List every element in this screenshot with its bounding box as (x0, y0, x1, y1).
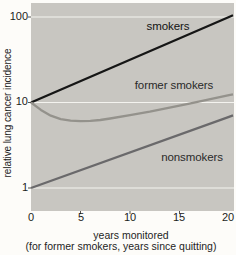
y-tick-label-10: 10 (0, 96, 28, 107)
series-label-nonsmokers: nonsmokers (161, 152, 223, 164)
series-label-smokers: smokers (147, 21, 190, 33)
x-tick-label-20: 20 (222, 212, 234, 223)
x-tick-label-10: 10 (124, 212, 136, 223)
x-tick-label-5: 5 (78, 212, 84, 223)
lung-cancer-incidence-figure: relative lung cancer incidence 100 10 1 … (0, 0, 236, 255)
chart-canvas (0, 0, 236, 255)
y-axis-title: relative lung cancer incidence (3, 49, 13, 178)
x-axis-title: years monitored (93, 230, 168, 241)
y-tick-label-100: 100 (0, 11, 28, 22)
x-tick-label-0: 0 (28, 212, 34, 223)
series-label-former-smokers: former smokers (135, 80, 213, 92)
plot-background (31, 3, 234, 211)
x-tick-label-15: 15 (173, 212, 185, 223)
y-tick-label-1: 1 (0, 182, 28, 193)
x-axis-subtitle: (for former smokers, years since quittin… (26, 241, 217, 252)
